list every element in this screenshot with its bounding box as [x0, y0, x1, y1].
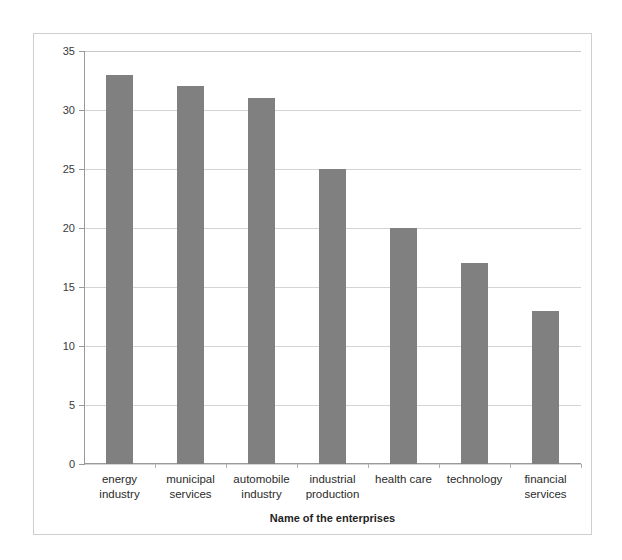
y-tick-label: 15 [63, 282, 75, 293]
y-tick-label: 5 [69, 400, 75, 411]
bar-series [84, 51, 581, 464]
x-tick-label-line: services [503, 487, 589, 502]
bar [106, 75, 133, 464]
y-tick-label: 10 [63, 341, 75, 352]
y-tick-label: 25 [63, 164, 75, 175]
bar [532, 311, 559, 464]
bar [390, 228, 417, 464]
x-tick-label-line: financial [503, 472, 589, 487]
plot-area: % requirement 35302520151050 energyindus… [84, 51, 581, 464]
x-tick-mark [581, 464, 582, 468]
y-tick-label: 0 [69, 459, 75, 470]
y-tick-label: 20 [63, 223, 75, 234]
y-tick-label: 35 [63, 46, 75, 57]
x-axis-labels: energyindustrymunicipalservicesautomobil… [84, 464, 581, 510]
chart-frame: % requirement 35302520151050 energyindus… [33, 33, 592, 535]
x-tick-label: financialservices [503, 472, 589, 502]
x-axis-title: Name of the enterprises [84, 512, 581, 524]
bar [319, 169, 346, 464]
bar [248, 98, 275, 464]
bar [177, 86, 204, 464]
bar [461, 263, 488, 464]
y-tick-label: 30 [63, 105, 75, 116]
x-tick-label-line: production [290, 487, 376, 502]
